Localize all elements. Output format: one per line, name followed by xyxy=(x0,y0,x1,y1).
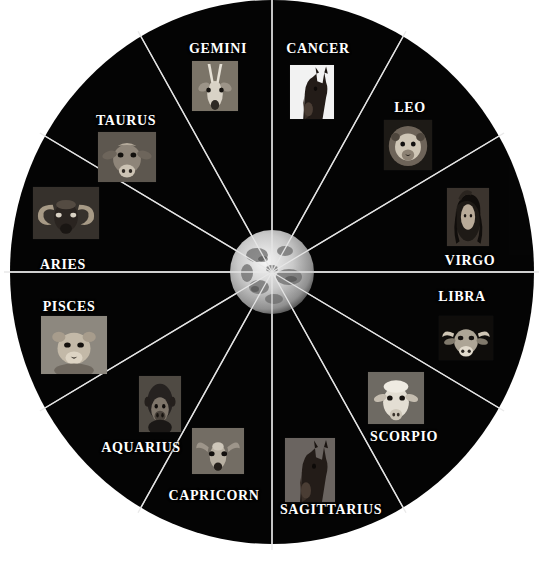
sign-image-libra[interactable] xyxy=(439,316,493,360)
sign-image-aries[interactable] xyxy=(33,187,99,239)
sign-image-capricorn[interactable] xyxy=(192,428,244,474)
sign-image-taurus[interactable] xyxy=(98,132,156,182)
sign-image-pisces[interactable] xyxy=(41,316,107,374)
sign-image-cancer[interactable] xyxy=(290,65,334,119)
wheel-graphic xyxy=(0,0,539,566)
sign-image-aquarius[interactable] xyxy=(139,376,181,432)
sign-image-virgo[interactable] xyxy=(447,188,489,246)
sign-image-sagittarius[interactable] xyxy=(285,438,335,502)
sign-image-gemini[interactable] xyxy=(192,61,238,111)
sign-image-leo[interactable] xyxy=(384,120,432,170)
sign-image-scorpio[interactable] xyxy=(368,372,424,424)
zodiac-wheel-figure: GEMINI CANCER LEO VIRGO xyxy=(0,0,539,566)
